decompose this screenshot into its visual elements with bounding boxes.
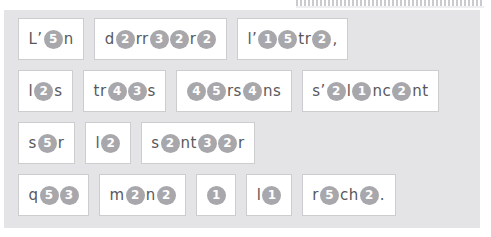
blank-number-bubble[interactable]: 2	[312, 30, 331, 49]
given-letters: rs	[226, 84, 242, 99]
given-letters: s’	[312, 84, 327, 99]
given-letters: ns	[262, 84, 281, 99]
blank-number-bubble[interactable]: 2	[161, 134, 180, 153]
given-letters: ,	[332, 32, 338, 47]
blank-number-bubble[interactable]: 1	[207, 186, 226, 205]
given-letters: ch	[340, 188, 360, 203]
blank-number-bubble[interactable]: 4	[243, 82, 262, 101]
word-answer-box[interactable]: s’2l1nc2nt	[302, 70, 439, 112]
word-answer-box[interactable]: d2rr32r2	[94, 18, 227, 60]
given-letters: l	[256, 188, 262, 203]
blank-number-bubble[interactable]: 2	[218, 134, 237, 153]
word-answer-box[interactable]: q53	[18, 174, 89, 216]
blank-number-bubble[interactable]: 5	[38, 134, 57, 153]
blank-number-bubble[interactable]: 5	[207, 82, 226, 101]
exercise-panel: L’5nd2rr32r2l’15tr2,l2str43s45rs4nss’2l1…	[4, 10, 480, 228]
given-letters: d	[104, 32, 115, 47]
blank-number-bubble[interactable]: 2	[170, 30, 189, 49]
blank-number-bubble[interactable]: 2	[126, 186, 145, 205]
exercise-row: q53m2n21l1r5ch2.	[18, 174, 470, 218]
given-letters: nt	[412, 84, 429, 99]
given-letters: s	[147, 84, 156, 99]
given-letters: nt	[180, 136, 197, 151]
blank-number-bubble[interactable]: 3	[150, 30, 169, 49]
word-answer-box[interactable]: 1	[196, 174, 236, 216]
blank-number-bubble[interactable]: 2	[116, 30, 135, 49]
blank-number-bubble[interactable]: 2	[157, 186, 176, 205]
given-letters: r	[237, 136, 245, 151]
blank-number-bubble[interactable]: 2	[34, 82, 53, 101]
blank-number-bubble[interactable]: 3	[128, 82, 147, 101]
word-answer-box[interactable]: m2n2	[99, 174, 186, 216]
blank-number-bubble[interactable]: 1	[352, 82, 371, 101]
word-answer-box[interactable]: l2s	[18, 70, 73, 112]
word-answer-box[interactable]: l1	[246, 174, 292, 216]
exercise-row: L’5nd2rr32r2l’15tr2,	[18, 18, 470, 62]
given-letters: .	[379, 188, 385, 203]
given-letters: L’	[28, 32, 43, 47]
given-letters: l	[95, 136, 101, 151]
blank-number-bubble[interactable]: 3	[198, 134, 217, 153]
blank-number-bubble[interactable]: 1	[262, 186, 281, 205]
given-letters: rr	[135, 32, 149, 47]
word-answer-box[interactable]: r5ch2.	[302, 174, 396, 216]
word-answer-box[interactable]: L’5n	[18, 18, 84, 60]
given-letters: tr	[93, 84, 107, 99]
word-answer-box[interactable]: s2nt32r	[141, 122, 255, 164]
blank-number-bubble[interactable]: 5	[278, 30, 297, 49]
top-cut-off-strip-shadow	[296, 6, 484, 8]
blank-number-bubble[interactable]: 4	[108, 82, 127, 101]
blank-number-bubble[interactable]: 2	[327, 82, 346, 101]
given-letters: n	[145, 188, 156, 203]
given-letters: q	[28, 188, 39, 203]
given-letters: s	[54, 84, 63, 99]
word-answer-box[interactable]: l2	[85, 122, 131, 164]
word-answer-box[interactable]: s5r	[18, 122, 75, 164]
word-answer-box[interactable]: l’15tr2,	[237, 18, 348, 60]
blank-number-bubble[interactable]: 2	[392, 82, 411, 101]
given-letters: m	[109, 188, 125, 203]
exercise-row: s5rl2s2nt32r	[18, 122, 470, 166]
blank-number-bubble[interactable]: 5	[44, 30, 63, 49]
blank-number-bubble[interactable]: 2	[197, 30, 216, 49]
blank-number-bubble[interactable]: 4	[187, 82, 206, 101]
given-letters: s	[28, 136, 37, 151]
given-letters: r	[312, 188, 320, 203]
given-letters: r	[189, 32, 197, 47]
blank-number-bubble[interactable]: 2	[101, 134, 120, 153]
blank-number-bubble[interactable]: 3	[60, 186, 79, 205]
given-letters: tr	[298, 32, 312, 47]
word-answer-box[interactable]: 45rs4ns	[176, 70, 291, 112]
blank-number-bubble[interactable]: 5	[320, 186, 339, 205]
exercise-row: l2str43s45rs4nss’2l1nc2nt	[18, 70, 470, 114]
word-answer-box[interactable]: tr43s	[83, 70, 166, 112]
blank-number-bubble[interactable]: 2	[360, 186, 379, 205]
exercise-rows-container: L’5nd2rr32r2l’15tr2,l2str43s45rs4nss’2l1…	[18, 18, 470, 222]
given-letters: n	[63, 32, 74, 47]
given-letters: l	[346, 84, 352, 99]
blank-number-bubble[interactable]: 1	[258, 30, 277, 49]
given-letters: s	[151, 136, 160, 151]
given-letters: l	[28, 84, 34, 99]
blank-number-bubble[interactable]: 5	[40, 186, 59, 205]
given-letters: r	[57, 136, 65, 151]
given-letters: nc	[372, 84, 392, 99]
given-letters: l’	[247, 32, 258, 47]
